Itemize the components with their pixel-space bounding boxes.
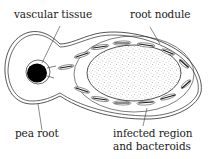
vascular-connection <box>47 66 56 78</box>
label-infected-region: infected region <box>113 127 193 139</box>
label-and-bacteroids: and bacteroids <box>113 140 191 152</box>
vascular-tissue <box>27 64 47 83</box>
label-vascular-tissue: vascular tissue <box>14 8 92 20</box>
label-root-nodule: root nodule <box>130 8 190 20</box>
root-nodule-diagram: vascular tissue root nodule pea root inf… <box>0 0 212 159</box>
label-pea-root: pea root <box>15 127 59 139</box>
